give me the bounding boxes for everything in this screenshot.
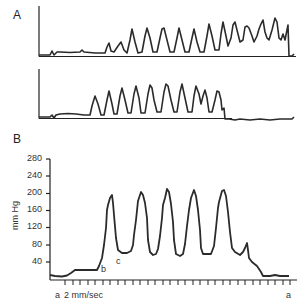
panel-b-pressure-trace bbox=[50, 189, 289, 277]
y-tick-200: 200 bbox=[18, 187, 42, 197]
panel-a-top-trace bbox=[39, 18, 294, 56]
figure-canvas bbox=[0, 0, 308, 308]
end-marker-a: a bbox=[286, 290, 291, 300]
point-c-label: c bbox=[116, 256, 121, 266]
y-tick-120: 120 bbox=[18, 221, 42, 231]
point-b-label: b bbox=[101, 264, 106, 274]
y-tick-280: 280 bbox=[18, 153, 42, 163]
panel-b-axes bbox=[46, 159, 297, 280]
y-tick-160: 160 bbox=[18, 204, 42, 214]
y-tick-240: 240 bbox=[18, 170, 42, 180]
start-marker-a: a bbox=[55, 290, 60, 300]
y-tick-40: 40 bbox=[18, 256, 42, 266]
y-axis-title: mm Hg bbox=[10, 201, 20, 230]
speed-label: 2 mm/sec bbox=[64, 290, 103, 300]
y-tick-80: 80 bbox=[18, 239, 42, 249]
panel-b-time-ticks bbox=[65, 280, 290, 285]
panel-a-bottom-trace bbox=[39, 84, 294, 120]
panel-a-top-axes bbox=[39, 6, 296, 57]
